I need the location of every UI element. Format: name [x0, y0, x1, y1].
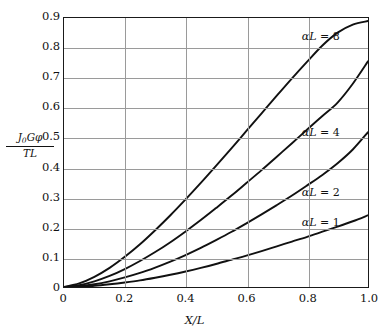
curve-label-1: αL = 1	[302, 217, 340, 228]
y-axis-tick-label: 0.4	[8, 162, 60, 174]
y-axis-tick-label: 0.8	[8, 41, 60, 53]
gridline-vertical	[309, 18, 310, 287]
x-axis-tick-label: 0.8	[299, 293, 317, 305]
curve-label-8: αL = 8	[302, 31, 340, 42]
x-axis-tick-label: 0	[59, 293, 66, 305]
gridline-horizontal	[64, 259, 368, 260]
curve-label-4: αL = 4	[302, 127, 340, 138]
plot-area	[63, 17, 369, 288]
curve-label-2: αL = 2	[302, 187, 340, 198]
gridline-horizontal	[64, 108, 368, 109]
y-axis-label: J0Gφ TL	[6, 132, 54, 159]
y-axis-tick-label: 0.7	[8, 71, 60, 83]
curve-8	[64, 21, 368, 287]
y-axis-label-numerator: J0Gφ	[6, 132, 54, 147]
y-axis-tick-label: 0.2	[8, 222, 60, 234]
x-axis-label: X/L	[0, 313, 389, 327]
gridline-vertical	[248, 18, 249, 287]
x-axis-tick-label: 0.2	[115, 293, 133, 305]
x-axis-tick-label: 1.0	[360, 293, 378, 305]
gridline-vertical	[186, 18, 187, 287]
curve-layer	[64, 18, 368, 287]
y-axis-tick-label: 0.9	[8, 11, 60, 23]
gridline-vertical	[125, 18, 126, 287]
x-axis-tick-label: 0.6	[238, 293, 256, 305]
y-axis-tick-label: 0.3	[8, 192, 60, 204]
x-axis-tick-labels: 00.20.40.60.81.0	[63, 293, 369, 309]
y-axis-label-denominator: TL	[6, 147, 54, 159]
x-axis-tick-label: 0.4	[176, 293, 194, 305]
gridline-horizontal	[64, 48, 368, 49]
y-axis-tick-label: 0.6	[8, 102, 60, 114]
x-axis-label-text: X/L	[185, 313, 205, 327]
y-axis-tick-label: 0	[8, 282, 60, 294]
gridline-horizontal	[64, 169, 368, 170]
gridline-horizontal	[64, 78, 368, 79]
y-axis-tick-label: 0.1	[8, 252, 60, 264]
chart-page: 00.10.20.30.40.50.60.70.80.9 J0Gφ TL 00.…	[0, 0, 389, 333]
